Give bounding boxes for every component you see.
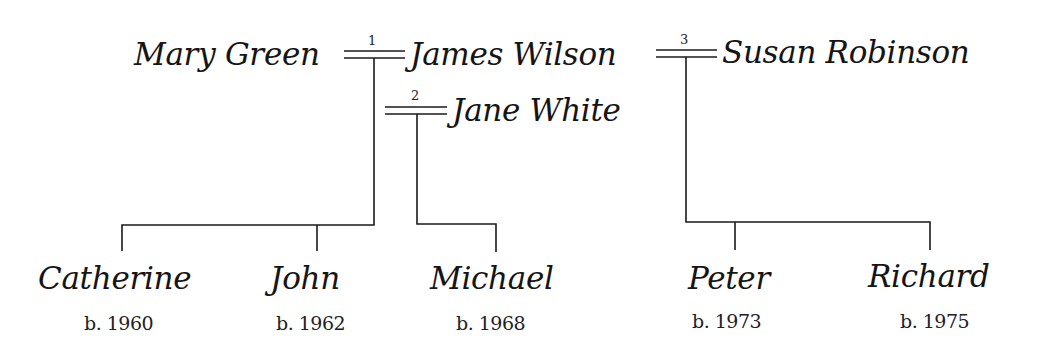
child-john: John [270,260,340,296]
child-catherine: Catherine [38,260,191,296]
marriage-3-connector [656,50,930,250]
marriage-number-1: 1 [368,33,376,48]
marriage-2-connector [385,107,496,252]
child-john-birth: b. 1962 [276,312,345,334]
person-jane-white: Jane White [452,92,621,128]
child-peter: Peter [688,260,770,296]
child-richard: Richard [868,258,990,294]
person-susan-robinson: Susan Robinson [722,34,969,70]
marriage-number-2: 2 [411,88,419,103]
child-michael: Michael [430,260,554,296]
child-michael-birth: b. 1968 [456,312,525,334]
marriage-1-connector [122,51,405,251]
child-catherine-birth: b. 1960 [84,312,153,334]
person-mary-green: Mary Green [134,36,320,72]
child-peter-birth: b. 1973 [692,310,761,332]
marriage-number-3: 3 [680,32,688,47]
child-richard-birth: b. 1975 [900,310,969,332]
person-james-wilson: James Wilson [410,36,617,72]
